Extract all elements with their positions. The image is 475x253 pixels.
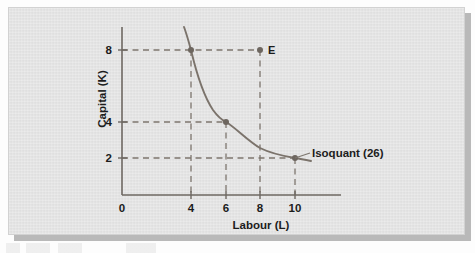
axis-tick-marks	[118, 50, 295, 199]
scan-edge-artifact	[6, 243, 166, 253]
marker-point-e	[257, 47, 263, 53]
isoquant-curve	[184, 27, 311, 161]
point-label-e: E	[268, 44, 275, 56]
isoquant-label-leader-line	[295, 153, 310, 158]
chart-axes	[122, 27, 341, 195]
dashed-guide-lines	[122, 50, 295, 195]
x-tick-label-10: 10	[289, 202, 302, 214]
y-tick-label-8: 8	[106, 44, 113, 56]
x-tick-label-8: 8	[257, 202, 264, 214]
x-tick-label-6: 6	[223, 202, 229, 214]
y-tick-label-2: 2	[106, 152, 112, 164]
x-tick-label-0: 0	[119, 202, 125, 214]
isoquant-chart: 8 4 2 0 4 6 8 10 Capital (K) Labour (L) …	[8, 7, 465, 235]
data-point-markers	[188, 47, 298, 161]
y-axis-title: Capital (K)	[96, 70, 108, 128]
marker-point-4-8	[188, 47, 194, 53]
figure-screenshot: 8 4 2 0 4 6 8 10 Capital (K) Labour (L) …	[0, 0, 475, 253]
x-axis-title: Labour (L)	[233, 219, 290, 231]
x-tick-label-4: 4	[188, 202, 195, 214]
isoquant-curve-label: Isoquant (26)	[312, 147, 384, 159]
marker-point-6-4	[223, 119, 229, 125]
